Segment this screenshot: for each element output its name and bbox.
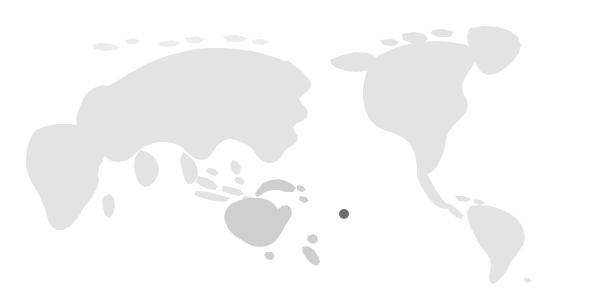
location-marker[interactable] bbox=[339, 209, 349, 219]
world-map-container bbox=[0, 0, 605, 293]
world-map-svg bbox=[0, 0, 605, 293]
